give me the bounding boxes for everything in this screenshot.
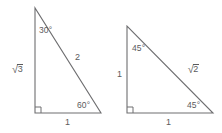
base-label-1-right: 1 [166, 118, 171, 127]
angle-label-60: 60° [77, 101, 90, 110]
side-label-sqrt3: √3 [12, 64, 23, 75]
triangle-45-45-90 [127, 26, 213, 113]
triangle-30-60-90-outline [35, 8, 101, 113]
angle-label-30: 30° [39, 26, 52, 35]
side-label-2: 2 [75, 53, 80, 62]
base-label-1-left: 1 [65, 118, 70, 127]
triangle-30-60-90 [35, 8, 101, 113]
radicand-2: 2 [193, 64, 199, 74]
right-angle-marker-left [35, 107, 41, 113]
angle-label-45-top: 45° [132, 44, 145, 53]
triangle-45-45-90-outline [127, 26, 213, 113]
right-angle-marker-right [127, 107, 133, 113]
angle-label-45-bottom: 45° [187, 101, 200, 110]
side-label-sqrt2: √2 [188, 64, 199, 75]
geometry-figure: 30° √3 2 60° 1 45° 1 √2 45° 1 [0, 0, 222, 133]
side-label-1-vertical: 1 [117, 70, 122, 79]
radicand-3: 3 [17, 64, 23, 74]
